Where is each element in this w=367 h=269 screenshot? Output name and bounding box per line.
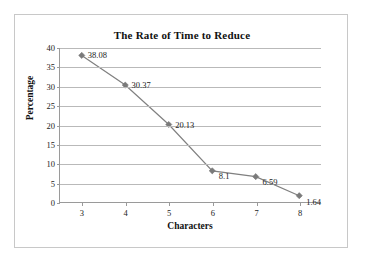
y-axis-tick-label: 5	[51, 179, 55, 189]
gridline	[60, 87, 321, 88]
x-axis-tickmark	[257, 202, 258, 206]
data-point-marker	[296, 193, 302, 199]
x-axis-tickmark	[213, 202, 214, 206]
gridline	[60, 67, 321, 68]
x-axis-tick-label: 5	[167, 208, 171, 218]
gridline	[60, 106, 321, 107]
y-axis-tickmark	[57, 126, 60, 127]
y-axis-tick-label: 30	[47, 82, 56, 92]
x-axis-tickmark	[82, 202, 83, 206]
x-axis-tickmark	[169, 202, 170, 206]
y-axis-tickmark	[57, 106, 60, 107]
gridline	[60, 164, 321, 165]
y-axis-tick-label: 15	[47, 140, 56, 150]
data-point-label: 20.13	[175, 120, 194, 130]
y-axis-tickmark	[57, 67, 60, 68]
x-axis-title: Characters	[59, 221, 321, 231]
data-point-marker	[253, 174, 259, 180]
y-axis-tick-label: 20	[47, 121, 56, 131]
x-axis-tickmark	[300, 202, 301, 206]
y-axis-tickmark	[57, 203, 60, 204]
chart-screenshot: The Rate of Time to Reduce Percentage 05…	[0, 0, 367, 269]
data-point-label: 8.1	[219, 171, 230, 181]
data-point-label: 30.37	[132, 80, 151, 90]
x-axis-tick-label: 3	[80, 208, 84, 218]
x-axis-tick-label: 8	[298, 208, 302, 218]
chart-frame: The Rate of Time to Reduce Percentage 05…	[14, 14, 348, 248]
data-point-label: 1.64	[306, 197, 321, 207]
y-axis-tickmark	[57, 87, 60, 88]
y-axis-tickmark	[57, 145, 60, 146]
y-axis-title: Percentage	[25, 48, 35, 148]
x-axis-tick-label: 6	[211, 208, 215, 218]
data-point-label: 6.59	[263, 177, 278, 187]
y-axis-tick-label: 40	[47, 43, 56, 53]
x-axis-tickmark	[126, 202, 127, 206]
y-axis-tick-label: 0	[51, 198, 55, 208]
y-axis-tickmark	[57, 184, 60, 185]
y-axis-tickmark	[57, 164, 60, 165]
gridline	[60, 184, 321, 185]
x-axis-tick-label: 7	[254, 208, 258, 218]
x-axis-tick-label: 4	[123, 208, 127, 218]
y-axis-tick-label: 25	[47, 101, 56, 111]
plot-area: 051015202530354034567838.0830.3720.138.1…	[59, 48, 321, 203]
data-point-label: 38.08	[88, 50, 107, 60]
y-axis-tick-label: 35	[47, 62, 56, 72]
y-axis-tick-label: 10	[47, 159, 56, 169]
gridline	[60, 48, 321, 49]
y-axis-tickmark	[57, 48, 60, 49]
gridline	[60, 145, 321, 146]
chart-title: The Rate of Time to Reduce	[15, 29, 349, 41]
